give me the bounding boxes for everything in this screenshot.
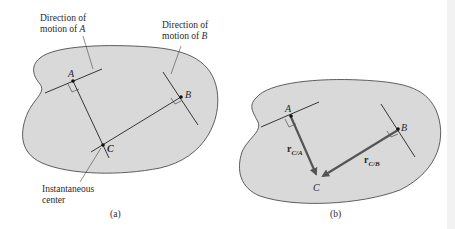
- label-point-a-b: A: [284, 103, 292, 114]
- label-point-c: C: [107, 143, 114, 154]
- label-point-c-b: C: [313, 182, 320, 193]
- label-direction-b-line1: Direction of: [162, 20, 209, 30]
- rigid-body-shape-b: [239, 80, 440, 204]
- rigid-body-diagram: Direction of motion of A Direction of mo…: [0, 0, 455, 229]
- label-direction-a-line2: motion of A: [40, 24, 86, 34]
- point-b-dot-b: [396, 127, 400, 131]
- point-a-dot-b: [289, 114, 293, 118]
- label-direction-b-line2: motion of B: [162, 31, 208, 41]
- caption-b: (b): [330, 209, 341, 220]
- rigid-body-shape-a: [23, 46, 218, 174]
- label-point-b-b: B: [401, 122, 407, 133]
- label-direction-a-line1: Direction of: [40, 13, 87, 23]
- label-instantaneous-center-line2: center: [42, 195, 66, 205]
- label-point-a: A: [67, 68, 75, 79]
- page-edge-strip: [447, 0, 455, 229]
- figure-b: A B C rC/A rC/B (b): [239, 80, 440, 220]
- point-a-dot: [71, 79, 75, 83]
- caption-a: (a): [110, 209, 121, 220]
- figure-a: Direction of motion of A Direction of mo…: [23, 13, 218, 220]
- point-b-dot: [179, 95, 183, 99]
- label-point-b: B: [185, 89, 191, 100]
- label-instantaneous-center-line1: Instantaneous: [42, 184, 95, 194]
- point-c-dot: [101, 143, 105, 147]
